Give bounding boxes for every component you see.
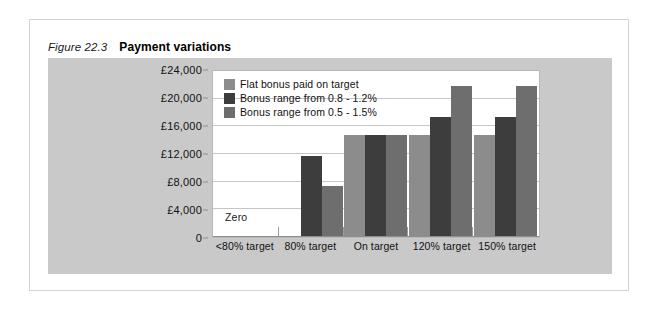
legend-swatch-icon [224,107,235,118]
gridline [213,70,539,71]
figure-number: Figure 22.3 [48,41,107,53]
bar [495,117,516,236]
bar [451,86,472,236]
y-axis-tick [203,238,208,239]
y-axis-tick [203,154,208,155]
y-axis-tick-label: £4,000 [167,204,202,216]
legend-label: Bonus range from 0.8 - 1.2% [240,92,377,104]
y-axis-tick [203,98,208,99]
y-axis-tick-label: £12,000 [161,148,202,160]
y-axis-tick [203,126,208,127]
bar [322,186,343,236]
x-axis-tick-label: <80% target [212,240,278,252]
legend-label: Flat bonus paid on target [240,78,359,90]
chart-panel: 0£4,000£8,000£12,000£16,000£20,000£24,00… [48,58,612,274]
bar [516,86,537,236]
figure-title: Payment variations [119,40,231,54]
bar [365,135,386,236]
y-axis-tick [203,210,208,211]
y-axis: 0£4,000£8,000£12,000£16,000£20,000£24,00… [126,70,208,238]
y-axis-tick [203,70,208,71]
legend-swatch-icon [224,93,235,104]
y-axis-tick [203,182,208,183]
bar-group [473,72,538,236]
legend-label: Bonus range from 0.5 - 1.5% [240,106,377,118]
y-axis-tick-label: £8,000 [167,176,202,188]
bar [344,135,365,236]
y-axis-tick-label: £20,000 [161,92,202,104]
figure-caption: Figure 22.3Payment variations [48,38,231,54]
y-axis-tick-label: 0 [196,232,202,244]
plot-region: Zero Flat bonus paid on targetBonus rang… [212,70,540,238]
x-axis-baseline [213,236,539,237]
chart-legend: Flat bonus paid on targetBonus range fro… [224,78,377,118]
bar [474,135,495,236]
x-axis-tick-label: On target [343,240,409,252]
x-axis-tick-label: 80% target [278,240,344,252]
bar [386,135,407,236]
bar [430,117,451,236]
x-axis-labels: <80% target80% targetOn target120% targe… [212,240,540,252]
zero-annotation: Zero [225,211,247,223]
x-axis-tick-label: 150% target [474,240,540,252]
figure-frame: Figure 22.3Payment variations 0£4,000£8,… [29,19,629,291]
legend-item: Flat bonus paid on target [224,78,377,90]
bar-group [408,72,473,236]
plot-area: Zero Flat bonus paid on targetBonus rang… [212,70,540,238]
legend-item: Bonus range from 0.5 - 1.5% [224,106,377,118]
bar [301,156,322,236]
bar [409,135,430,236]
y-axis-tick-label: £16,000 [161,120,202,132]
x-axis-tick-label: 120% target [409,240,475,252]
legend-swatch-icon [224,79,235,90]
y-axis-tick-label: £24,000 [161,64,202,76]
legend-item: Bonus range from 0.8 - 1.2% [224,92,377,104]
